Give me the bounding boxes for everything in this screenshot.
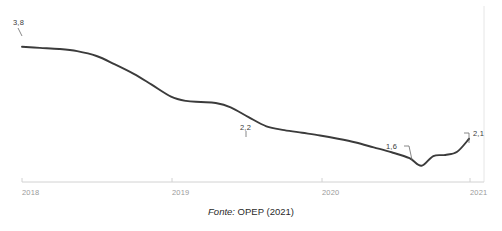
caption-source-rest: OPEP (2021): [235, 206, 294, 217]
x-tick-label-2019: 2019: [172, 188, 190, 197]
chart-figure: 2018 2019 2020 2021 3,8 2,2 1,6 2,1 Font…: [0, 0, 502, 231]
figure-caption: Fonte: OPEP (2021): [0, 206, 502, 217]
caption-source-word: Fonte:: [208, 206, 235, 217]
data-label-end: 2,1: [473, 129, 484, 138]
data-label-trough: 1,6: [386, 142, 397, 151]
chart-background: [0, 0, 502, 231]
x-tick-label-2020: 2020: [322, 188, 340, 197]
data-label-start: 3,8: [13, 18, 24, 27]
x-tick-label-2018: 2018: [22, 188, 40, 197]
x-tick-label-2021: 2021: [470, 188, 488, 197]
line-chart: 2018 2019 2020 2021 3,8 2,2 1,6 2,1: [0, 0, 502, 231]
data-label-2019: 2,2: [240, 123, 251, 132]
